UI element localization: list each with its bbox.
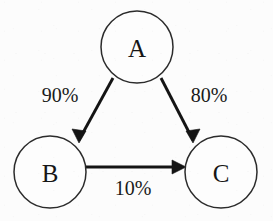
node-b[interactable]: B (14, 136, 86, 208)
node-c[interactable]: C (185, 136, 257, 208)
edge-b-to-c[interactable] (86, 160, 186, 174)
edge-a-to-c-label: 80% (191, 84, 228, 106)
graph-svg: A B C 90% 80% 10% (0, 0, 273, 221)
diagram-canvas: A B C 90% 80% 10% (0, 0, 273, 221)
node-b-label: B (42, 160, 59, 187)
node-a-label: A (128, 35, 146, 62)
edge-b-to-c-arrowhead-icon (172, 160, 186, 174)
edge-group (72, 78, 200, 174)
edge-b-to-c-label: 10% (115, 177, 152, 199)
node-a[interactable]: A (101, 11, 173, 83)
edge-a-to-b-label: 90% (42, 84, 79, 106)
edge-a-to-c-arrowhead-icon (186, 129, 200, 143)
node-c-label: C (213, 160, 230, 187)
edge-a-to-b-arrowhead-icon (72, 129, 86, 143)
